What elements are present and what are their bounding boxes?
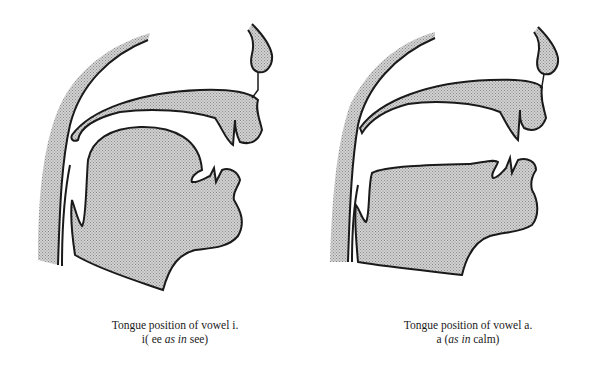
figure-vowel-a: Tongue position of vowel a. a (as in cal… <box>300 0 601 368</box>
caption-title: Tongue position of vowel i. <box>45 318 305 332</box>
vocal-tract-diagram-a <box>300 0 601 310</box>
caption-title: Tongue position of vowel a. <box>338 318 598 332</box>
tongue-i <box>71 127 242 290</box>
caption-vowel-i: Tongue position of vowel i. i( ee as in … <box>45 318 305 346</box>
upper-lip <box>248 24 272 72</box>
caption-example: a (as in calm) <box>338 332 598 346</box>
tongue-a <box>355 158 537 275</box>
caption-vowel-a: Tongue position of vowel a. a (as in cal… <box>338 318 598 346</box>
upper-lip <box>534 27 558 74</box>
palate <box>360 80 546 140</box>
caption-example: i( ee as in see) <box>45 332 305 346</box>
figure-vowel-i: Tongue position of vowel i. i( ee as in … <box>0 0 300 368</box>
vocal-tract-diagram-i <box>0 0 300 310</box>
